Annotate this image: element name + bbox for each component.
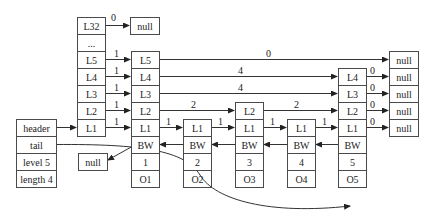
node5-level-L3: L3 xyxy=(338,85,367,103)
node5-level-L4: L4 xyxy=(338,68,367,86)
span-node3-L2: 2 xyxy=(294,100,299,110)
node3-score: 3 xyxy=(235,153,264,171)
null-box-L5: null xyxy=(389,51,419,69)
node2-object: O2 xyxy=(183,170,212,188)
span-node5-L1: 0 xyxy=(370,117,375,127)
null-box-L3: null xyxy=(389,85,419,103)
null-box-L2: null xyxy=(389,102,419,120)
span-node4-L1: 1 xyxy=(322,117,327,127)
struct-header: header xyxy=(16,119,57,137)
span-node3-L1: 1 xyxy=(270,117,275,127)
node1-level-L2: L2 xyxy=(131,102,160,120)
node5-score: 5 xyxy=(338,153,367,171)
node5-backward: BW xyxy=(338,136,367,154)
node1-level-L1: L1 xyxy=(131,119,160,137)
span-node1-L1: 1 xyxy=(166,117,171,127)
span-node2-L1: 1 xyxy=(218,117,223,127)
header-level-L4: L4 xyxy=(77,68,106,86)
header-level-L3: L3 xyxy=(77,85,106,103)
struct-length: length 4 xyxy=(16,170,57,188)
node1-backward: BW xyxy=(131,136,160,154)
span-header-L5: 1 xyxy=(114,49,119,59)
node2-backward: BW xyxy=(183,136,212,154)
span-header-L32: 0 xyxy=(111,13,116,23)
span-node1-L3: 4 xyxy=(238,83,243,93)
struct-level: level 5 xyxy=(16,153,57,171)
null-box-backward: null xyxy=(78,153,108,171)
span-node5-L4: 0 xyxy=(370,66,375,76)
node1-level-L3: L3 xyxy=(131,85,160,103)
node4-object: O4 xyxy=(287,170,316,188)
node1-object: O1 xyxy=(131,170,160,188)
skiplist-diagram: L32 ... L5 L4 L3 L2 L1 null header tail … xyxy=(0,0,430,220)
header-level-L1: L1 xyxy=(77,119,106,137)
node1-level-L4: L4 xyxy=(131,68,160,86)
span-node1-L2: 2 xyxy=(191,100,196,110)
header-level-L2: L2 xyxy=(77,102,106,120)
span-node5-L3: 0 xyxy=(370,83,375,93)
null-box-L1: null xyxy=(389,119,419,137)
span-header-L1: 1 xyxy=(114,117,119,127)
node3-backward: BW xyxy=(235,136,264,154)
span-header-L2: 1 xyxy=(114,100,119,110)
header-level-L32: L32 xyxy=(77,17,106,35)
node1-score: 1 xyxy=(131,153,160,171)
node3-level-L2: L2 xyxy=(235,102,264,120)
null-box-L32: null xyxy=(130,17,160,35)
span-header-L3: 1 xyxy=(114,83,119,93)
struct-tail: tail xyxy=(16,136,57,154)
node4-score: 4 xyxy=(287,153,316,171)
node3-object: O3 xyxy=(235,170,264,188)
node2-level-L1: L1 xyxy=(183,119,212,137)
node1-level-L5: L5 xyxy=(131,51,160,69)
node5-level-L1: L1 xyxy=(338,119,367,137)
node5-object: O5 xyxy=(338,170,367,188)
node5-level-L2: L2 xyxy=(338,102,367,120)
span-node1-L4: 4 xyxy=(238,66,243,76)
span-node5-L2: 0 xyxy=(370,100,375,110)
span-header-L4: 1 xyxy=(114,66,119,76)
node3-level-L1: L1 xyxy=(235,119,264,137)
node2-score: 2 xyxy=(183,153,212,171)
span-node1-L5: 0 xyxy=(266,49,271,59)
header-level-ellipsis: ... xyxy=(77,34,106,52)
node4-level-L1: L1 xyxy=(287,119,316,137)
header-level-L5: L5 xyxy=(77,51,106,69)
null-box-L4: null xyxy=(389,68,419,86)
node4-backward: BW xyxy=(287,136,316,154)
